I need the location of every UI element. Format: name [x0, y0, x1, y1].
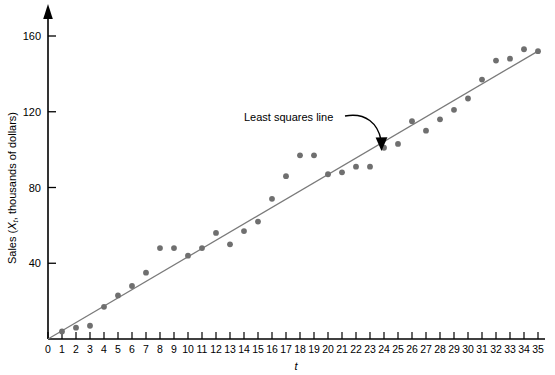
x-tick-label: 34: [518, 343, 530, 355]
x-tick-label: 17: [280, 343, 292, 355]
y-axis: [43, 4, 53, 339]
x-tick-label: 14: [238, 343, 250, 355]
data-point: [241, 228, 247, 234]
data-point: [535, 48, 541, 54]
chart-canvas: 4080120160 01234567891011121314151617181…: [0, 0, 555, 375]
y-axis-title-prefix: Sales (: [6, 229, 18, 264]
data-point: [157, 245, 163, 251]
x-tick-label: 11: [197, 343, 208, 355]
data-point: [325, 171, 331, 177]
x-tick-label: 12: [210, 343, 222, 355]
x-tick-label: 0: [45, 343, 51, 355]
x-tick-label: 6: [129, 343, 135, 355]
data-point: [283, 173, 289, 179]
x-tick-label: 26: [406, 343, 418, 355]
x-tick-label: 19: [308, 343, 320, 355]
x-tick-label: 10: [182, 343, 194, 355]
x-tick-label: 29: [448, 343, 460, 355]
data-point: [115, 293, 121, 299]
svg-text:Sales (Xt, thousands of dollar: Sales (Xt, thousands of dollars): [6, 112, 20, 264]
x-tick-label: 21: [336, 343, 348, 355]
y-tick-label: 120: [23, 106, 41, 118]
x-axis-ticks: 0123456789101112131415161718192021222324…: [45, 332, 544, 355]
x-tick-label: 27: [420, 343, 432, 355]
x-tick-label: 30: [462, 343, 474, 355]
data-point: [367, 164, 373, 170]
data-point: [311, 152, 317, 158]
x-tick-label: 35: [532, 343, 544, 355]
x-tick-label: 32: [490, 343, 502, 355]
up-arrow-icon: [43, 4, 53, 19]
x-tick-label: 24: [378, 343, 390, 355]
y-axis-title: Sales (Xt, thousands of dollars): [6, 112, 20, 264]
x-tick-label: 28: [434, 343, 446, 355]
x-tick-label: 9: [171, 343, 177, 355]
x-tick-label: 4: [101, 343, 107, 355]
data-point: [171, 245, 177, 251]
data-point: [199, 245, 205, 251]
data-point: [297, 152, 303, 158]
data-point: [227, 241, 233, 247]
data-point: [213, 230, 219, 236]
data-point: [73, 325, 79, 331]
x-tick-label: 23: [364, 343, 376, 355]
data-point: [521, 46, 527, 52]
data-point: [437, 116, 443, 122]
data-point: [339, 169, 345, 175]
x-tick-label: 1: [59, 343, 65, 355]
data-point: [465, 96, 471, 102]
x-tick-label: 3: [87, 343, 93, 355]
x-tick-label: 13: [224, 343, 236, 355]
data-point: [409, 118, 415, 124]
y-tick-label: 160: [23, 30, 41, 42]
x-tick-label: 5: [115, 343, 121, 355]
x-tick-label: 22: [350, 343, 362, 355]
x-tick-label: 7: [143, 343, 149, 355]
data-point: [59, 329, 65, 335]
x-tick-label: 16: [266, 343, 278, 355]
x-axis-title: t: [294, 360, 298, 372]
annotation-label: Least squares line: [244, 111, 333, 123]
x-tick-label: 15: [252, 343, 264, 355]
x-tick-label: 8: [157, 343, 163, 355]
data-point: [143, 270, 149, 276]
data-point: [479, 77, 485, 83]
y-axis-title-suffix: , thousands of dollars): [6, 112, 18, 220]
y-axis-ticks: 4080120160: [23, 30, 56, 269]
y-tick-label: 80: [29, 182, 41, 194]
x-tick-label: 31: [476, 343, 488, 355]
annotation-curve: [345, 115, 381, 140]
x-tick-label: 2: [73, 343, 79, 355]
data-point: [451, 107, 457, 113]
y-tick-label: 40: [29, 257, 41, 269]
x-tick-label: 25: [392, 343, 404, 355]
data-point: [255, 219, 261, 225]
data-point: [353, 164, 359, 170]
annotation-arrow: [345, 115, 387, 151]
data-point: [423, 128, 429, 134]
fit-line-segment: [48, 51, 538, 339]
x-tick-label: 20: [322, 343, 334, 355]
scatter-chart: 4080120160 01234567891011121314151617181…: [0, 0, 555, 375]
data-point: [507, 56, 513, 62]
data-point: [87, 323, 93, 329]
least-squares-line: [48, 51, 538, 339]
x-tick-label: 33: [504, 343, 516, 355]
data-point: [101, 304, 107, 310]
x-tick-label: 18: [294, 343, 306, 355]
data-point: [185, 253, 191, 259]
data-point: [269, 196, 275, 202]
data-point: [395, 141, 401, 147]
data-point: [129, 283, 135, 289]
data-point: [493, 58, 499, 64]
